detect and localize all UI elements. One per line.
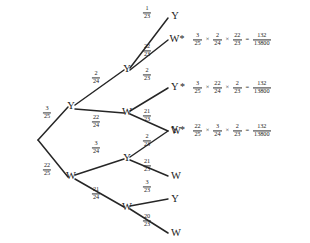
multiply-symbol: ×	[205, 85, 210, 92]
branch-prob-y-yy: 224	[92, 70, 100, 85]
eq1-factor-1: 325	[193, 32, 202, 47]
node-y: Y	[67, 101, 75, 112]
equation-2: 325 × 2224 × 223 = 13213800	[193, 80, 271, 95]
branch-prob-leaf-8: 2023	[143, 213, 151, 228]
star-marker: *	[180, 81, 185, 92]
branch-prob-leaf-6: 2123	[143, 158, 151, 173]
leaf-node-1: Y	[171, 11, 179, 22]
branch-prob-root-w: 2225	[43, 162, 51, 177]
node-w: W	[66, 171, 76, 182]
equals-symbol: =	[245, 37, 250, 44]
multiply-symbol: ×	[205, 37, 210, 44]
eq2-factor-3: 223	[233, 80, 242, 95]
node-yy: Y	[123, 64, 131, 75]
branch-prob-leaf-7: 323	[143, 179, 151, 194]
node-wy: Y	[123, 153, 131, 164]
leaf-node-2: W*	[170, 34, 185, 45]
branch-prob-leaf-1: 123	[143, 5, 151, 20]
eq2-result: 13213800	[253, 80, 271, 95]
edge-ww-to-leaf7	[130, 199, 168, 206]
probability-tree-diagram: Y W Y W Y W Y W* Y* W Y* W Y W 325 2225 …	[0, 0, 310, 243]
multiply-symbol: ×	[225, 85, 230, 92]
branch-prob-w-wy: 324	[92, 140, 100, 155]
eq2-factor-1: 325	[193, 80, 202, 95]
leaf-node-7: Y	[171, 194, 179, 205]
node-ww: W	[122, 202, 132, 213]
branch-prob-leaf-2: 2223	[143, 43, 151, 58]
eq1-factor-2: 224	[213, 32, 222, 47]
multiply-symbol: ×	[225, 37, 230, 44]
branch-prob-leaf-3: 223	[143, 67, 151, 82]
leaf-node-3: Y*	[171, 82, 185, 93]
eq3-factor-1: 2225	[193, 123, 202, 138]
eq3-factor-3: 223	[233, 123, 242, 138]
edge-y-to-yw	[75, 109, 124, 113]
equals-symbol: =	[245, 85, 250, 92]
star-marker: *	[179, 33, 184, 44]
leaf-node-5: Y*	[171, 125, 185, 136]
multiply-symbol: ×	[205, 128, 210, 135]
star-marker: *	[180, 124, 185, 135]
multiply-symbol: ×	[225, 128, 230, 135]
edge-w-to-wy	[75, 159, 124, 175]
eq3-factor-2: 324	[213, 123, 222, 138]
branch-prob-leaf-5: 223	[143, 133, 151, 148]
branch-prob-leaf-4: 2123	[143, 108, 151, 123]
equation-3: 2225 × 324 × 223 = 13213800	[193, 123, 271, 138]
branch-prob-root-y: 325	[43, 105, 51, 120]
eq2-factor-2: 2224	[213, 80, 222, 95]
eq3-result: 13213800	[253, 123, 271, 138]
equation-1: 325 × 224 × 2223 = 13213800	[193, 32, 271, 47]
eq1-factor-3: 2223	[233, 32, 242, 47]
branch-prob-w-ww: 2124	[92, 186, 100, 201]
branch-prob-y-yw: 2224	[92, 114, 100, 129]
eq1-result: 13213800	[253, 32, 271, 47]
equals-symbol: =	[245, 128, 250, 135]
node-yw: W	[122, 107, 132, 118]
leaf-node-8: W	[171, 228, 181, 239]
leaf-node-6: W	[171, 171, 181, 182]
